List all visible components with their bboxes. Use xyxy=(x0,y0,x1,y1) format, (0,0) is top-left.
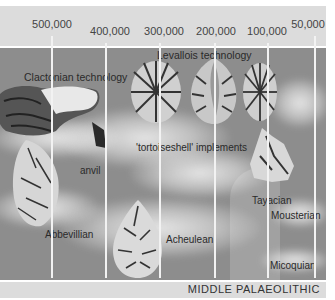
tick-label-200000: 200,000 xyxy=(196,25,236,37)
illustration-area: Clactonian technology Levallois technolo… xyxy=(0,48,326,280)
speckle-cloud xyxy=(270,78,326,128)
gridline-100000 xyxy=(267,43,269,278)
label-micoquian: Micoquian xyxy=(270,260,316,271)
gridline-50000 xyxy=(314,36,316,278)
tick-label-100000: 100,000 xyxy=(247,25,287,37)
label-levallois-technology: Levallois technology xyxy=(157,49,252,61)
label-clactonian-technology: Clactonian technology xyxy=(24,71,127,83)
tick-label-50000: 50,000 xyxy=(291,18,325,30)
label-anvil: anvil xyxy=(80,165,101,176)
tick-label-300000: 300,000 xyxy=(144,25,184,37)
palaeolithic-timeline-diagram: 500,000 400,000 300,000 200,000 100,000 … xyxy=(0,6,326,296)
tick-label-500000: 500,000 xyxy=(32,18,72,30)
timeline-header: 500,000 400,000 300,000 200,000 100,000 … xyxy=(0,6,326,46)
acheulean-handaxe-icon xyxy=(110,198,165,280)
gridline-400000 xyxy=(105,43,107,278)
label-tayacian: Tayacian xyxy=(252,195,291,206)
label-acheulean: Acheulean xyxy=(166,234,213,245)
label-tortoiseshell-implements: 'tortoiseshell' implements xyxy=(136,142,247,153)
tayacian-flake-icon xyxy=(248,126,298,186)
period-label: MIDDLE PALAEOLITHIC xyxy=(188,283,320,295)
gridline-500000 xyxy=(51,36,53,278)
levallois-core-3-icon xyxy=(242,62,278,122)
period-footer: MIDDLE PALAEOLITHIC xyxy=(0,282,326,298)
tick-label-400000: 400,000 xyxy=(90,25,130,37)
gridline-200000 xyxy=(214,43,216,278)
gridline-300000 xyxy=(159,43,161,278)
levallois-core-1-icon xyxy=(130,60,182,125)
